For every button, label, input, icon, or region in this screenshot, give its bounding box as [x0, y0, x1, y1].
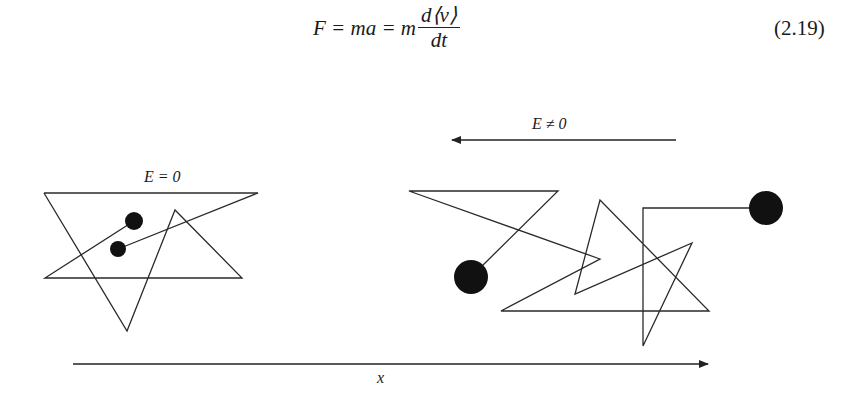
left-zero-field-trajectory: [44, 193, 258, 331]
x-axis-label: x: [377, 369, 384, 387]
particle: [125, 212, 143, 230]
nonzero-field-label: E ≠ 0: [532, 115, 567, 133]
particle: [454, 260, 488, 294]
right-particles: [454, 191, 783, 294]
random-walk-diagram: [0, 0, 853, 410]
trajectory-segment: [44, 193, 242, 331]
zero-field-label: E = 0: [144, 168, 181, 186]
particle: [110, 241, 126, 257]
particle: [749, 191, 783, 225]
left-particles: [110, 212, 143, 257]
